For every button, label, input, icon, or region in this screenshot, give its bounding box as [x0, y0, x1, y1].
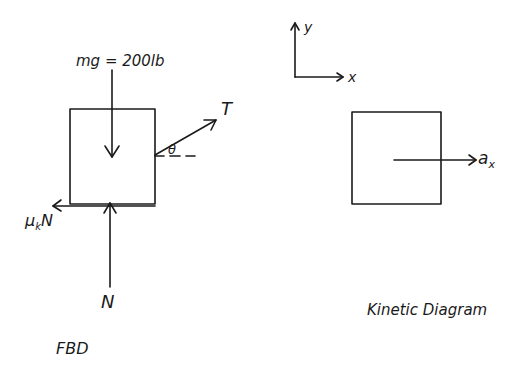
tension-arrow	[155, 120, 216, 155]
friction-label: μkN	[25, 213, 53, 232]
accel-subscript: x	[488, 158, 495, 171]
weight-arrow	[105, 70, 119, 157]
weight-label: mg = 200lb	[76, 54, 165, 69]
friction-normal: N	[41, 211, 53, 230]
x-axis-label: x	[348, 70, 356, 84]
fbd-title: FBD	[56, 341, 89, 357]
friction-arrow	[53, 200, 155, 211]
accel-symbol: a	[478, 148, 488, 168]
kinetic-block	[352, 112, 441, 204]
y-axis-label: y	[304, 20, 312, 34]
kinetic-title: Kinetic Diagram	[367, 303, 487, 318]
normal-arrow	[104, 203, 116, 287]
coordinate-axes	[291, 23, 343, 81]
angle-label: θ	[168, 143, 176, 156]
acceleration-label: ax	[478, 150, 495, 170]
mu-symbol: μ	[25, 211, 35, 230]
normal-label: N	[101, 293, 114, 311]
tension-label: T	[221, 100, 232, 118]
acceleration-arrow	[394, 155, 476, 165]
